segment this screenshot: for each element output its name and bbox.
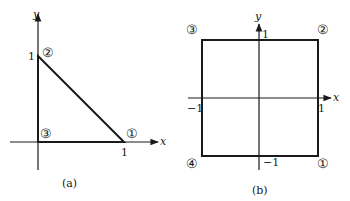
x-tick-1-b: 1	[318, 102, 325, 115]
node-4-b: ④	[186, 156, 198, 171]
x-axis-label-b: x	[333, 91, 340, 104]
y-tick-1-b: 1	[262, 28, 269, 41]
node-1-a: ①	[126, 126, 138, 141]
y-axis-label-b: y	[254, 10, 262, 23]
y-tick-1-a: 1	[28, 50, 35, 63]
x-tick-neg1-b: −1	[187, 102, 203, 115]
figure-a: y x 1 1 ② ③ ① (a)	[10, 8, 167, 190]
node-2-b: ②	[317, 22, 329, 37]
node-1-b: ①	[317, 156, 329, 171]
y-tick-neg1-b: −1	[263, 156, 279, 169]
node-3-b: ③	[186, 22, 198, 37]
figure-b: y x 1 −1 1 −1 ③ ② ④ ① (b)	[186, 10, 340, 197]
caption-b: (b)	[252, 184, 268, 197]
x-tick-1-a: 1	[121, 146, 128, 159]
node-2-a: ②	[42, 45, 54, 60]
caption-a: (a)	[62, 177, 77, 190]
node-3-a: ③	[40, 126, 52, 141]
x-axis-label-a: x	[160, 135, 167, 148]
figure-canvas: y x 1 1 ② ③ ① (a) y x 1 −1 1 −1 ③ ② ④ ① …	[0, 0, 350, 201]
y-axis-label-a: y	[32, 8, 40, 21]
